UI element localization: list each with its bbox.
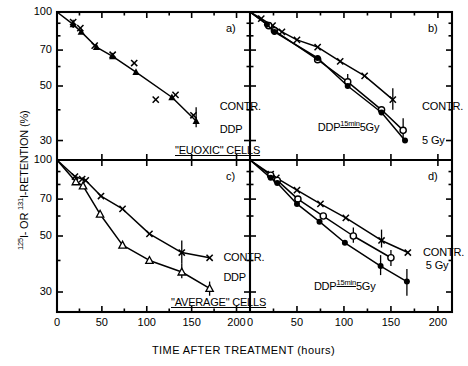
x-tick-label: 50	[283, 316, 311, 328]
series-annotation: CONTR.	[423, 246, 464, 258]
panel-c	[57, 160, 213, 296]
panel-label: d)	[428, 170, 438, 182]
x-tick-label: 0	[43, 316, 71, 328]
y-tick-label: 70	[18, 43, 52, 55]
y-tick-label: 50	[18, 79, 52, 91]
y-tick-label: 30	[18, 285, 52, 297]
cell-group-label: "EUOXIC" CELLS	[175, 144, 260, 156]
series-ddp-15min-5gy	[250, 160, 410, 296]
x-tick-label: 0	[236, 316, 264, 328]
y-tick-label: 100	[18, 5, 52, 17]
cell-group-label: "AVERAGE" CELLS	[171, 296, 266, 308]
panel-label: c)	[226, 170, 235, 182]
panel-d	[250, 160, 411, 296]
series-annotation: DDP	[223, 271, 246, 283]
x-axis-title: TIME AFTER TREATMENT (hours)	[152, 344, 335, 356]
figure-canvas	[0, 0, 468, 366]
series-annotation: DDP	[220, 123, 243, 135]
y-axis-title: 125I- OR 131I-RETENTION (%)	[16, 111, 30, 250]
x-tick-label: 200	[424, 316, 452, 328]
series-annotation: 5 Gy	[426, 259, 448, 271]
x-tick-label: 50	[88, 316, 116, 328]
x-tick-label: 150	[377, 316, 405, 328]
series-contr-	[57, 160, 213, 263]
ddp-treatment-annotation: DDP15min5Gy	[318, 119, 380, 133]
series-annotation: CONTR.	[223, 251, 264, 263]
series-annotation: CONTR.	[220, 100, 261, 112]
series-ddp	[57, 12, 200, 127]
panel-a	[57, 12, 200, 127]
series-annotation: 5 Gy	[422, 134, 444, 146]
x-tick-label: 100	[330, 316, 358, 328]
panel-label: b)	[428, 22, 438, 34]
figure-root: 1007050301007050300501001502000501001502…	[0, 0, 468, 366]
ddp-treatment-annotation: DDP15min5Gy	[314, 278, 376, 292]
series-annotation: CONTR.	[422, 100, 463, 112]
x-tick-label: 150	[178, 316, 206, 328]
panel-label: a)	[226, 22, 236, 34]
x-tick-label: 100	[133, 316, 161, 328]
axes-frame	[57, 12, 452, 312]
